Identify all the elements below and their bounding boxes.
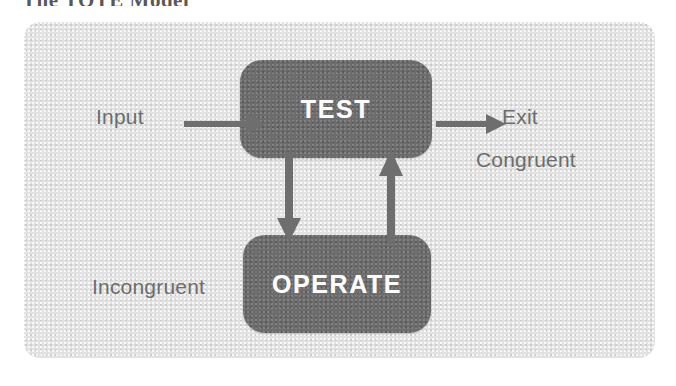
arrow-down-icon-test-to-operate <box>274 152 304 244</box>
arrow-right-icon-test-to-exit <box>436 110 508 138</box>
process-box-test[interactable]: TEST <box>240 60 432 158</box>
label-incongruent: Incongruent <box>92 275 205 299</box>
diagram-panel: TEST OPERATE Input Exit Congruent Incong… <box>24 22 655 358</box>
process-box-test-label: TEST <box>301 95 371 124</box>
figure-caption: The TOTE Model <box>22 0 442 6</box>
label-input: Input <box>96 105 144 129</box>
arrow-up-icon-operate-to-test <box>376 150 406 244</box>
process-box-operate-label: OPERATE <box>272 270 402 299</box>
process-box-operate[interactable]: OPERATE <box>243 235 431 333</box>
arrow-right-icon-input-to-test <box>184 110 268 138</box>
label-congruent: Congruent <box>476 148 576 172</box>
